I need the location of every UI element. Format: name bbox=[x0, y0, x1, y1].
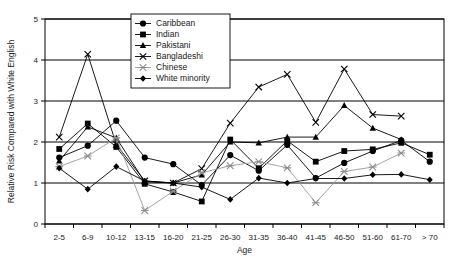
plot-area-frame bbox=[45, 19, 444, 224]
star-marker bbox=[226, 162, 234, 169]
xtick-label-13-15: 13-15 bbox=[135, 233, 156, 242]
square-marker bbox=[56, 146, 62, 152]
ytick-label-4: 4 bbox=[34, 56, 39, 65]
square-marker bbox=[140, 32, 146, 38]
xtick-label-26-30: 26-30 bbox=[220, 233, 241, 242]
cross-marker bbox=[56, 134, 62, 140]
relative-risk-line-chart: 0123452-56-910-1213-1516-2021-2526-3031-… bbox=[0, 0, 455, 270]
diamond-marker bbox=[427, 176, 433, 183]
circle-marker bbox=[427, 159, 433, 165]
star-marker bbox=[255, 158, 263, 165]
xtick-label-61-70: 61-70 bbox=[391, 233, 412, 242]
diamond-marker bbox=[113, 163, 119, 170]
circle-marker bbox=[341, 160, 347, 166]
xtick-label-41-45: 41-45 bbox=[306, 233, 327, 242]
ytick-label-3: 3 bbox=[34, 97, 39, 106]
ytick-label-5: 5 bbox=[34, 15, 39, 24]
xtick-label-46-50: 46-50 bbox=[334, 233, 355, 242]
series-caribbean bbox=[56, 118, 433, 189]
diamond-marker bbox=[370, 172, 376, 179]
star-marker bbox=[84, 153, 92, 160]
square-marker bbox=[341, 148, 347, 154]
circle-marker bbox=[85, 143, 91, 149]
diamond-marker bbox=[398, 171, 404, 178]
triangle-marker bbox=[341, 102, 347, 108]
legend-label: Caribbean bbox=[156, 18, 195, 28]
circle-marker bbox=[170, 161, 176, 167]
cross-marker bbox=[341, 66, 347, 72]
circle-marker bbox=[113, 118, 119, 124]
x-axis-title: Age bbox=[237, 245, 252, 255]
legend-label: Chinese bbox=[156, 62, 187, 72]
star-marker bbox=[141, 207, 149, 214]
legend-label: Indian bbox=[156, 29, 179, 39]
diamond-marker bbox=[284, 180, 290, 187]
star-marker bbox=[283, 165, 291, 172]
xtick-label-51-60: 51-60 bbox=[363, 233, 384, 242]
cross-marker bbox=[256, 84, 262, 90]
square-marker bbox=[199, 199, 205, 205]
circle-marker bbox=[140, 20, 146, 26]
y-axis-title: Relative Risk Compared with White Englis… bbox=[6, 40, 16, 204]
legend-label: Bangladeshi bbox=[156, 51, 203, 61]
square-marker bbox=[256, 165, 262, 171]
diamond-marker bbox=[85, 186, 91, 193]
star-marker bbox=[340, 168, 348, 175]
xtick-label-36-40: 36-40 bbox=[277, 233, 298, 242]
series-group bbox=[55, 51, 433, 214]
cross-marker bbox=[85, 51, 91, 57]
cross-marker bbox=[227, 120, 233, 126]
star-marker bbox=[369, 164, 377, 171]
cross-marker bbox=[313, 119, 319, 125]
circle-marker bbox=[142, 154, 148, 160]
xtick-label--70: > 70 bbox=[422, 233, 438, 242]
chart-container: 0123452-56-910-1213-1516-2021-2526-3031-… bbox=[0, 0, 455, 270]
gridlines: 012345 bbox=[34, 15, 444, 229]
xtick-label-31-35: 31-35 bbox=[249, 233, 270, 242]
star-marker bbox=[397, 150, 405, 157]
square-marker bbox=[313, 159, 319, 165]
legend-label: Pakistani bbox=[156, 40, 191, 50]
xtick-label-2-5: 2-5 bbox=[53, 233, 65, 242]
ytick-label-2: 2 bbox=[34, 138, 39, 147]
xtick-label-10-12: 10-12 bbox=[106, 233, 127, 242]
xtick-label-16-20: 16-20 bbox=[163, 233, 184, 242]
star-marker bbox=[312, 199, 320, 206]
ytick-label-1: 1 bbox=[34, 179, 39, 188]
circle-marker bbox=[227, 152, 233, 158]
xtick-label-21-25: 21-25 bbox=[192, 233, 213, 242]
triangle-marker bbox=[370, 125, 376, 131]
legend-label: White minority bbox=[156, 73, 211, 83]
square-marker bbox=[370, 146, 376, 152]
cross-marker bbox=[284, 71, 290, 77]
diamond-marker bbox=[341, 175, 347, 182]
legend: CaribbeanIndianPakistaniBangladeshiChine… bbox=[131, 14, 230, 88]
diamond-marker bbox=[227, 196, 233, 203]
x-axis: 2-56-910-1213-1516-2021-2526-3031-3536-4… bbox=[45, 224, 444, 242]
diamond-marker bbox=[256, 175, 262, 182]
xtick-label-6-9: 6-9 bbox=[82, 233, 94, 242]
ytick-label-0: 0 bbox=[34, 220, 39, 229]
square-marker bbox=[427, 152, 433, 158]
